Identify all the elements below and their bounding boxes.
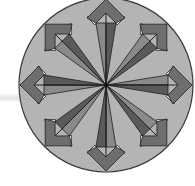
arrow-group (20, 0, 192, 171)
rosette-diagram (0, 0, 195, 186)
center-hub (104, 83, 108, 87)
